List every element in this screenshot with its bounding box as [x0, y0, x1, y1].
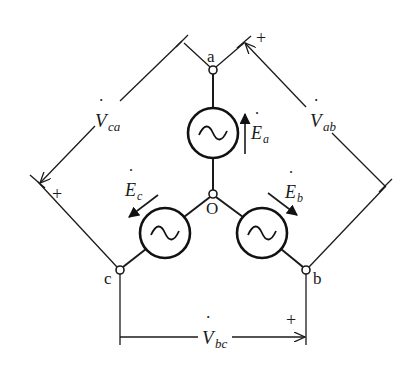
svg-text:ab: ab	[323, 119, 337, 134]
svg-text:˙: ˙	[313, 95, 319, 116]
wire-source-c-to-c	[123, 249, 146, 267]
svg-text:˙: ˙	[98, 95, 104, 116]
vca-line-upper	[120, 41, 182, 101]
svg-text:a: a	[263, 132, 269, 146]
vca-line-lower	[40, 126, 95, 183]
vab-line-lower	[332, 133, 385, 186]
ec-label: E c ˙	[124, 166, 143, 203]
node-b	[302, 266, 310, 274]
source-b	[237, 208, 287, 258]
source-a	[188, 108, 238, 158]
svg-text:˙: ˙	[128, 166, 134, 186]
vab-plus-sign: +	[256, 28, 266, 48]
vbc-plus-sign: +	[286, 310, 296, 330]
node-a-label: a	[207, 47, 215, 66]
ea-label: E a ˙	[250, 109, 269, 146]
vca-tick-bottom	[30, 175, 45, 188]
svg-text:bc: bc	[215, 336, 228, 351]
node-b-label: b	[313, 269, 322, 288]
svg-text:˙: ˙	[205, 312, 211, 333]
vab-tick-bottom	[379, 179, 392, 192]
vab-label: V ab ˙	[310, 95, 337, 134]
node-o	[209, 190, 217, 198]
svg-text:b: b	[297, 191, 303, 205]
vbc-label: V bc ˙	[202, 312, 228, 351]
node-o-label: O	[206, 199, 218, 218]
svg-text:˙: ˙	[254, 109, 260, 129]
wire-o-to-source-b	[216, 197, 243, 217]
vbc-measurement: V bc ˙ +	[120, 274, 306, 351]
node-a	[209, 66, 217, 74]
wire-source-b-to-b	[281, 249, 303, 267]
three-phase-y-circuit-diagram: a O c b E a ˙ E c ˙ E b ˙ V ca ˙ +	[0, 0, 419, 370]
node-c-label: c	[104, 269, 112, 288]
vca-lead-c	[38, 182, 117, 267]
vab-lead-a	[216, 43, 244, 67]
svg-text:c: c	[137, 189, 143, 203]
vab-line-upper	[245, 43, 306, 107]
svg-text:ca: ca	[108, 119, 121, 134]
eb-label: E b ˙	[284, 168, 303, 205]
vab-lead-b	[309, 186, 386, 267]
vca-plus-sign: +	[52, 184, 62, 204]
vca-label: V ca ˙	[95, 95, 121, 134]
svg-text:˙: ˙	[288, 168, 294, 188]
node-c	[116, 266, 124, 274]
source-c	[140, 208, 190, 258]
